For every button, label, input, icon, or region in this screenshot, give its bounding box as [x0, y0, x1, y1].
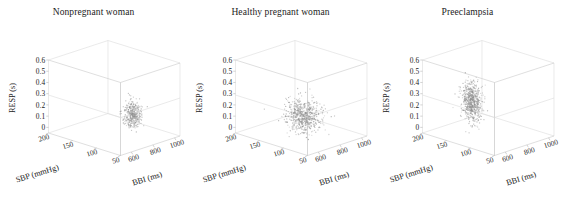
tick-resp: 0: [41, 123, 45, 132]
axis-label-sbp: SBP (mmHg): [202, 163, 247, 185]
tick-resp: 0.5: [223, 67, 233, 76]
tick-sbp: 100: [272, 147, 286, 159]
plot-canvas-2: 0.60.50.40.30.20.10RESP (s)20015010050SB…: [374, 0, 561, 209]
axis-sbp: 20015010050SBP (mmHg): [202, 132, 308, 185]
tick-bbi: 800: [149, 145, 163, 157]
tick-resp: 0.5: [410, 67, 420, 76]
panel-nonpregnant: Nonpregnant woman 0.60.50.40.30.20.10RES…: [0, 0, 187, 209]
tick-sbp: 200: [224, 132, 238, 144]
tick-resp: 0.4: [410, 78, 420, 87]
axis-frame: [49, 41, 181, 156]
tick-resp: 0.6: [410, 56, 420, 65]
axis-resp: 0.60.50.40.30.20.10RESP (s): [8, 56, 49, 132]
tick-bbi: 800: [336, 145, 350, 157]
axis-frame: [423, 41, 555, 156]
axis-label-bbi: BBI (ms): [318, 170, 350, 188]
tick-resp: 0.2: [36, 101, 46, 110]
axis-label-sbp: SBP (mmHg): [15, 163, 60, 185]
axis-bbi: 6008001000BBI (ms): [314, 137, 373, 187]
plot-canvas-0: 0.60.50.40.30.20.10RESP (s)20015010050SB…: [0, 0, 187, 209]
panel-preeclampsia: Preeclampsia 0.60.50.40.30.20.10RESP (s)…: [374, 0, 561, 209]
axis-label-sbp: SBP (mmHg): [389, 163, 434, 185]
axis-label-resp: RESP (s): [382, 83, 391, 113]
tick-sbp: 50: [298, 155, 308, 166]
axis-label-bbi: BBI (ms): [505, 170, 537, 188]
tick-resp: 0.3: [36, 89, 46, 98]
tick-sbp: 200: [37, 132, 51, 144]
point-cloud: [119, 93, 148, 133]
tick-bbi: 600: [314, 152, 328, 164]
tick-resp: 0.6: [36, 56, 46, 65]
tick-resp: 0.4: [36, 78, 46, 87]
axis-label-resp: RESP (s): [8, 83, 17, 113]
tick-sbp: 150: [435, 139, 449, 151]
tick-sbp: 150: [248, 139, 262, 151]
point-cloud: [452, 72, 488, 133]
axis-label-bbi: BBI (ms): [131, 170, 163, 188]
tick-resp: 0.4: [223, 78, 233, 87]
tick-resp: 0.5: [36, 67, 46, 76]
tick-bbi: 600: [127, 152, 141, 164]
tick-sbp: 50: [111, 155, 121, 166]
axis-sbp: 20015010050SBP (mmHg): [15, 132, 121, 185]
axis-resp: 0.60.50.40.30.20.10RESP (s): [195, 56, 236, 132]
tick-sbp: 100: [459, 147, 473, 159]
point-cloud: [264, 88, 336, 140]
axis-bbi: 6008001000BBI (ms): [127, 137, 186, 187]
tick-sbp: 150: [61, 139, 75, 151]
figure-3d-scatter-panels: Nonpregnant woman 0.60.50.40.30.20.10RES…: [0, 0, 561, 209]
tick-resp: 0.1: [36, 112, 46, 121]
axis-sbp: 20015010050SBP (mmHg): [389, 132, 495, 185]
plot-canvas-1: 0.60.50.40.30.20.10RESP (s)20015010050SB…: [187, 0, 374, 209]
axis-frame: [236, 41, 368, 156]
tick-resp: 0.6: [223, 56, 233, 65]
tick-resp: 0: [228, 123, 232, 132]
tick-resp: 0.1: [223, 112, 233, 121]
tick-resp: 0.2: [223, 101, 233, 110]
tick-sbp: 50: [485, 155, 495, 166]
panel-healthy-pregnant: Healthy pregnant woman 0.60.50.40.30.20.…: [187, 0, 374, 209]
tick-resp: 0.2: [410, 101, 420, 110]
tick-sbp: 100: [85, 147, 99, 159]
tick-sbp: 200: [411, 132, 425, 144]
tick-resp: 0.3: [223, 89, 233, 98]
tick-bbi: 800: [523, 145, 537, 157]
axis-resp: 0.60.50.40.30.20.10RESP (s): [382, 56, 423, 132]
axis-label-resp: RESP (s): [195, 83, 204, 113]
tick-bbi: 600: [501, 152, 515, 164]
tick-resp: 0.1: [410, 112, 420, 121]
tick-resp: 0.3: [410, 89, 420, 98]
axis-bbi: 6008001000BBI (ms): [501, 137, 560, 187]
tick-resp: 0: [415, 123, 419, 132]
